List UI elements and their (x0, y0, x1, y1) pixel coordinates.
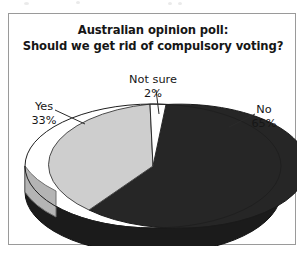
pie-label-yes-pct: 33% (15, 114, 73, 128)
pie-label-no-pct: 65% (235, 117, 293, 131)
pie-label-notsure-name: Not sure (113, 73, 193, 87)
pie-label-yes-name: Yes (15, 100, 73, 114)
pie-chart-plot (9, 14, 297, 246)
scan-artifact (24, 2, 29, 5)
scan-artifact (76, 1, 80, 4)
pie-label-notsure-pct: 2% (113, 87, 193, 101)
pie-label-no: No 65% (235, 103, 293, 130)
chart-frame: Australian opinion poll: Should we get r… (8, 13, 296, 245)
pie-label-yes: Yes 33% (15, 100, 73, 127)
scan-artifact (178, 2, 182, 5)
scan-artifact (168, 2, 172, 5)
pie-label-notsure: Not sure 2% (113, 73, 193, 100)
figure: Australian opinion poll: Should we get r… (0, 0, 307, 259)
pie-label-no-name: No (235, 103, 293, 117)
